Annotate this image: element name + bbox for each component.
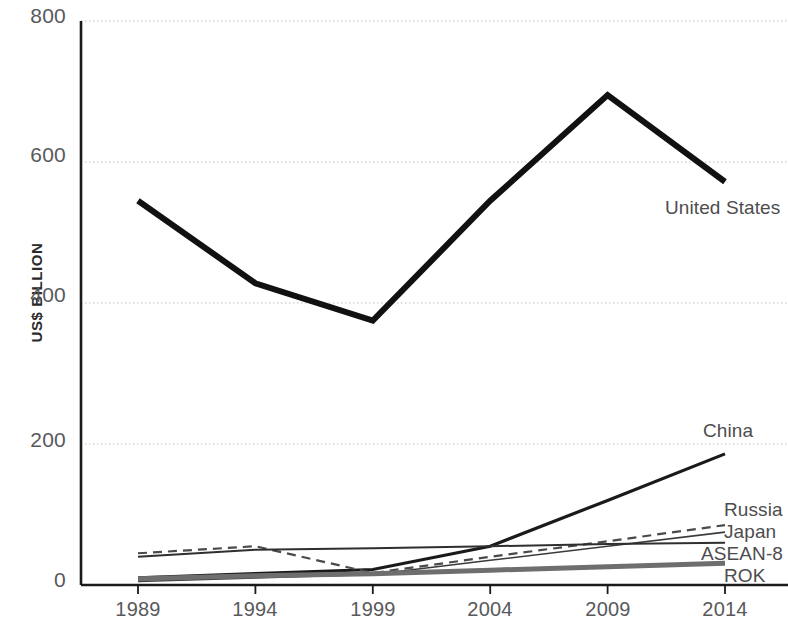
series-line-rok xyxy=(138,563,725,579)
series-label-russia: Russia xyxy=(724,499,783,521)
series-line-china xyxy=(138,454,725,578)
series-label-japan: Japan xyxy=(724,521,776,543)
series-label-united-states: United States xyxy=(665,197,780,219)
series-label-china: China xyxy=(703,420,753,442)
series-label-asean8: ASEAN-8 xyxy=(701,543,783,565)
series-label-rok: ROK xyxy=(724,565,765,587)
chart-figure: US$ BILLION 800 600 400 200 0 1989 1994 … xyxy=(0,0,788,630)
series-line-asean-8 xyxy=(138,543,725,557)
series-lines xyxy=(138,95,725,581)
series-line-united-states xyxy=(138,95,725,321)
chart-plot-area xyxy=(0,0,788,630)
axis-tick-marks xyxy=(138,585,725,594)
